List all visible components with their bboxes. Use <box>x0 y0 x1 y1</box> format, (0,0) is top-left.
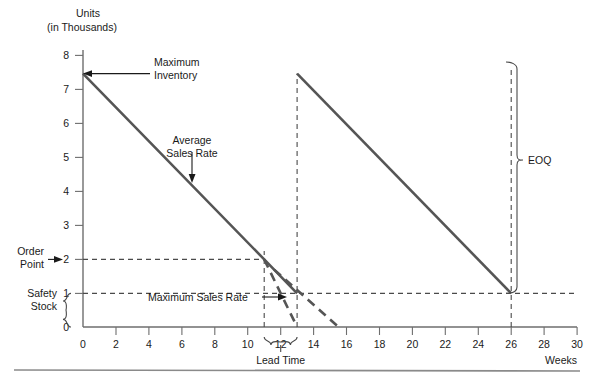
x-tick-label-4: 4 <box>146 338 152 350</box>
y-tick-label-2: 2 <box>63 253 69 265</box>
y-tick-label-3: 3 <box>63 219 69 231</box>
maximum-inventory-label-line1: Maximum <box>154 56 200 68</box>
order-point-arrowhead <box>54 256 63 263</box>
annotation-order-point: Order Point <box>17 245 63 270</box>
eoq-label: EOQ <box>528 154 551 166</box>
footer-divider <box>14 370 580 371</box>
annotation-maximum-inventory: Maximum Inventory <box>83 56 200 81</box>
x-tick-label-2: 2 <box>113 338 119 350</box>
x-tick-label-18: 18 <box>374 338 386 350</box>
x-tick-label-20: 20 <box>407 338 419 350</box>
annotation-average-sales-rate: Average Sales Rate <box>166 134 218 183</box>
y-tick-label-1: 1 <box>63 287 69 299</box>
x-tick-label-6: 6 <box>179 338 185 350</box>
x-tick-label-14: 14 <box>308 338 320 350</box>
annotation-eoq: EOQ <box>506 62 551 293</box>
y-tick-label-0: 0 <box>63 321 69 333</box>
y-axis-title-line1: Units <box>76 7 100 19</box>
average-sales-rate-label-line1: Average <box>173 134 212 146</box>
order-point-label-line2: Point <box>20 258 44 270</box>
x-tick-label-30: 30 <box>571 338 583 350</box>
lead-time-label: Lead Time <box>256 354 305 366</box>
x-tick-label-28: 28 <box>538 338 550 350</box>
y-tick-label-6: 6 <box>63 117 69 129</box>
y-tick-label-7: 7 <box>63 83 69 95</box>
maximum-inventory-label-line2: Inventory <box>154 69 198 81</box>
y-axis-title-line2: (in Thousands) <box>47 21 117 33</box>
x-tick-label-0: 0 <box>80 338 86 350</box>
safety-stock-label-line1: Safety <box>27 287 58 299</box>
x-tick-label-16: 16 <box>341 338 353 350</box>
y-axis-ticks <box>75 55 83 293</box>
inventory-eoq-chart: Units (in Thousands) 8 7 6 5 4 3 2 1 0 <box>0 0 594 378</box>
x-tick-label-24: 24 <box>472 338 484 350</box>
maximum-sales-rate-label: Maximum Sales Rate <box>148 291 248 303</box>
safety-stock-label-line2: Stock <box>31 300 58 312</box>
annotation-maximum-sales-rate: Maximum Sales Rate <box>148 291 287 303</box>
x-tick-label-22: 22 <box>439 338 451 350</box>
eoq-brace <box>506 62 523 293</box>
y-tick-label-5: 5 <box>63 151 69 163</box>
y-axis-tick-labels: 8 7 6 5 4 3 2 1 0 <box>63 49 69 333</box>
x-axis-title: Weeks <box>545 354 577 366</box>
order-point-label-line1: Order <box>17 245 44 257</box>
x-axis-tick-labels: 0 2 4 6 8 10 12 14 16 18 20 22 24 26 28 … <box>80 338 583 350</box>
x-tick-label-26: 26 <box>505 338 517 350</box>
series-average-sales-rate-cycle-2 <box>297 74 511 294</box>
y-tick-label-4: 4 <box>63 185 69 197</box>
x-tick-label-10: 10 <box>242 338 254 350</box>
y-tick-label-8: 8 <box>63 49 69 61</box>
x-tick-label-8: 8 <box>212 338 218 350</box>
maximum-sales-rate-arrowhead <box>278 294 287 301</box>
x-axis-ticks <box>116 327 577 335</box>
average-sales-rate-label-line2: Sales Rate <box>166 147 218 159</box>
